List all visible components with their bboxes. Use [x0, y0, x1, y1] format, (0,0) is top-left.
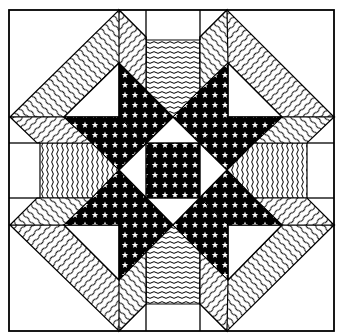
center-square: [146, 143, 200, 198]
quilt-block: [0, 0, 343, 336]
